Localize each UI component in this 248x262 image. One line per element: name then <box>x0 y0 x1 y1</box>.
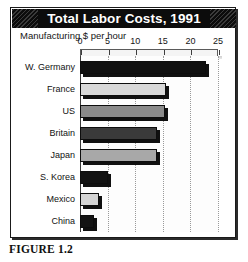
tick-label-0: 0 <box>77 36 82 46</box>
bar-face <box>80 61 206 74</box>
axis-tick-5 <box>109 50 110 55</box>
figure-caption: FIGURE 1.2 <box>9 243 73 255</box>
x-axis-ruler <box>80 49 218 56</box>
plot-area <box>80 56 218 232</box>
bar-mexico <box>80 193 99 206</box>
bar-face <box>80 149 157 162</box>
category-label-us: US <box>62 106 75 116</box>
gridline-25 <box>218 56 219 232</box>
tick-label-15: 15 <box>158 36 168 46</box>
figure-container: Total Labor Costs, 1991 Manufacturing $ … <box>0 0 248 262</box>
bar-us <box>80 105 165 118</box>
category-label-britain: Britain <box>49 128 75 138</box>
bar-china <box>80 215 94 228</box>
axis-tick-0 <box>81 50 82 55</box>
chart-title: Total Labor Costs, 1991 <box>12 11 236 26</box>
axis-tick-10 <box>136 50 137 55</box>
category-label-japan: Japan <box>50 150 75 160</box>
chart-title-bar: Total Labor Costs, 1991 <box>12 9 236 28</box>
category-label-w-germany: W. Germany <box>25 62 75 72</box>
x-axis-tick-labels: 0510152025 <box>80 36 218 48</box>
bar-britain <box>80 127 157 140</box>
bar-face <box>80 215 94 228</box>
category-label-china: China <box>51 216 75 226</box>
bar-face <box>80 193 99 206</box>
tick-label-20: 20 <box>185 36 195 46</box>
axis-tick-15 <box>164 50 165 55</box>
chart-frame: Total Labor Costs, 1991 Manufacturing $ … <box>10 7 236 238</box>
bar-face <box>80 105 165 118</box>
y-axis-category-labels: W. GermanyFranceUSBritainJapanS. KoreaMe… <box>13 56 78 232</box>
category-label-s-korea: S. Korea <box>40 172 75 182</box>
bar-japan <box>80 149 157 162</box>
category-label-mexico: Mexico <box>46 194 75 204</box>
bar-face <box>80 171 108 184</box>
axis-tick-20 <box>191 50 192 55</box>
gridline-20 <box>190 56 191 232</box>
bar-face <box>80 127 157 140</box>
bar-france <box>80 83 166 96</box>
axis-tick-25 <box>219 50 220 55</box>
bar-s-korea <box>80 171 108 184</box>
category-label-france: France <box>47 84 75 94</box>
bar-face <box>80 83 166 96</box>
bar-w-germany <box>80 61 206 74</box>
tick-label-10: 10 <box>130 36 140 46</box>
tick-label-25: 25 <box>213 36 223 46</box>
tick-label-5: 5 <box>105 36 110 46</box>
